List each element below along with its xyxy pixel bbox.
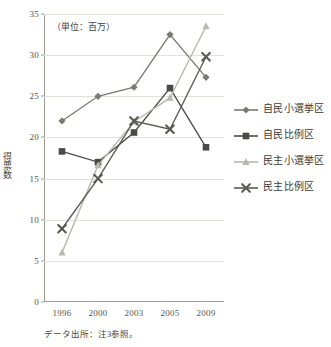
data-point-square: [59, 148, 66, 155]
legend-label: 自民小選挙区: [263, 100, 325, 115]
data-point-square: [243, 132, 250, 139]
x-tick-label: 2003: [125, 308, 144, 318]
data-point-diamond: [242, 106, 249, 113]
x-tick-label: 2000: [89, 308, 108, 318]
data-point-square: [131, 129, 138, 136]
x-tick-label: 1996: [53, 308, 72, 318]
y-tick-label: 25: [30, 91, 39, 101]
legend-marker-diamond-icon: [233, 102, 259, 114]
series-1: [58, 31, 209, 125]
legend-marker-square-icon: [233, 128, 259, 140]
chart-figure: （単位：百万） 得票数 05101520253035 1996200020032…: [0, 0, 331, 347]
legend-marker-x-icon: [233, 180, 259, 192]
legend: 自民小選挙区自民比例区民主小選挙区民主比例区: [233, 100, 325, 193]
legend-label: 民主比例区: [263, 178, 315, 193]
y-tick-label: 5: [34, 256, 39, 266]
plot-area: 05101520253035 19962000200320052009: [44, 14, 224, 302]
data-point-triangle: [166, 94, 173, 101]
data-point-square: [167, 85, 174, 92]
y-tick-mark: [41, 219, 44, 220]
gridline: [44, 261, 224, 262]
data-point-square: [203, 144, 210, 151]
series-line: [62, 35, 206, 121]
legend-item-4[interactable]: 民主比例区: [233, 178, 325, 193]
legend-marker-triangle-icon: [233, 154, 259, 166]
gridline: [44, 179, 224, 180]
y-axis-title: 得票数: [1, 152, 14, 179]
y-tick-label: 20: [30, 132, 39, 142]
y-tick-label: 10: [30, 215, 39, 225]
y-tick-label: 15: [30, 174, 39, 184]
y-tick-label: 30: [30, 50, 39, 60]
x-tick-label: 2005: [161, 308, 180, 318]
x-tick-label: 2009: [197, 308, 216, 318]
legend-item-2[interactable]: 自民比例区: [233, 126, 325, 141]
data-point-x: [202, 53, 210, 61]
gridline: [44, 220, 224, 221]
y-tick-label: 0: [34, 297, 39, 307]
legend-label: 自民比例区: [263, 126, 315, 141]
source-footnote: データ出所：注3参照。: [44, 327, 138, 339]
data-point-triangle: [202, 22, 209, 29]
legend-item-1[interactable]: 自民小選挙区: [233, 100, 325, 115]
y-tick-mark: [41, 178, 44, 179]
y-tick-label: 35: [30, 9, 39, 19]
y-tick-mark: [41, 260, 44, 261]
y-tick-mark: [41, 302, 44, 303]
legend-item-3[interactable]: 民主小選挙区: [233, 152, 325, 167]
legend-label: 民主小選挙区: [263, 152, 325, 167]
